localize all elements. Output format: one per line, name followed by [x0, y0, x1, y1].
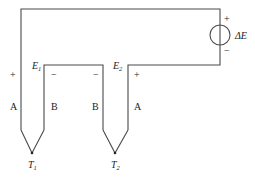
polarity-right-plus: +: [134, 69, 140, 80]
wire-label-b-right: B: [92, 101, 99, 112]
wire-label-b-left: B: [51, 101, 58, 112]
polarity-e1-minus: −: [51, 69, 57, 80]
wire-label-a-right: A: [134, 101, 142, 112]
t2-label: T2: [111, 159, 121, 171]
polarity-left-plus: +: [10, 69, 16, 80]
junction-t1-wire: [21, 130, 44, 153]
source-plus-label: +: [224, 13, 230, 24]
return-wire: [128, 45, 220, 130]
source-delta-e-label: ΔE: [234, 30, 247, 41]
e2-label: E2: [112, 60, 123, 72]
source-minus-label: −: [224, 45, 230, 56]
junction-t2-wire: [103, 130, 128, 153]
e1-label: E1: [31, 60, 41, 72]
t1-label: T1: [28, 159, 37, 171]
polarity-e2-minus: −: [93, 69, 99, 80]
wire-label-a-left: A: [10, 101, 18, 112]
junction-t1-dot: [31, 152, 34, 155]
thermocouple-diagram: + ΔE − E1 E2 + − − + A B B A T1 T2: [0, 0, 255, 180]
junction-t2-dot: [114, 152, 117, 155]
